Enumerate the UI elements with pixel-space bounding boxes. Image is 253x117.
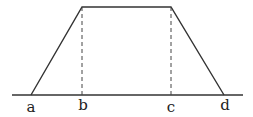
label-a: a [27,100,36,115]
diagram-lines [0,0,253,117]
label-b: b [78,98,88,113]
trapezoid-outline [31,7,224,95]
label-d: d [220,98,230,113]
trapezoid-diagram: a b c d [0,0,253,117]
label-c: c [167,100,175,115]
